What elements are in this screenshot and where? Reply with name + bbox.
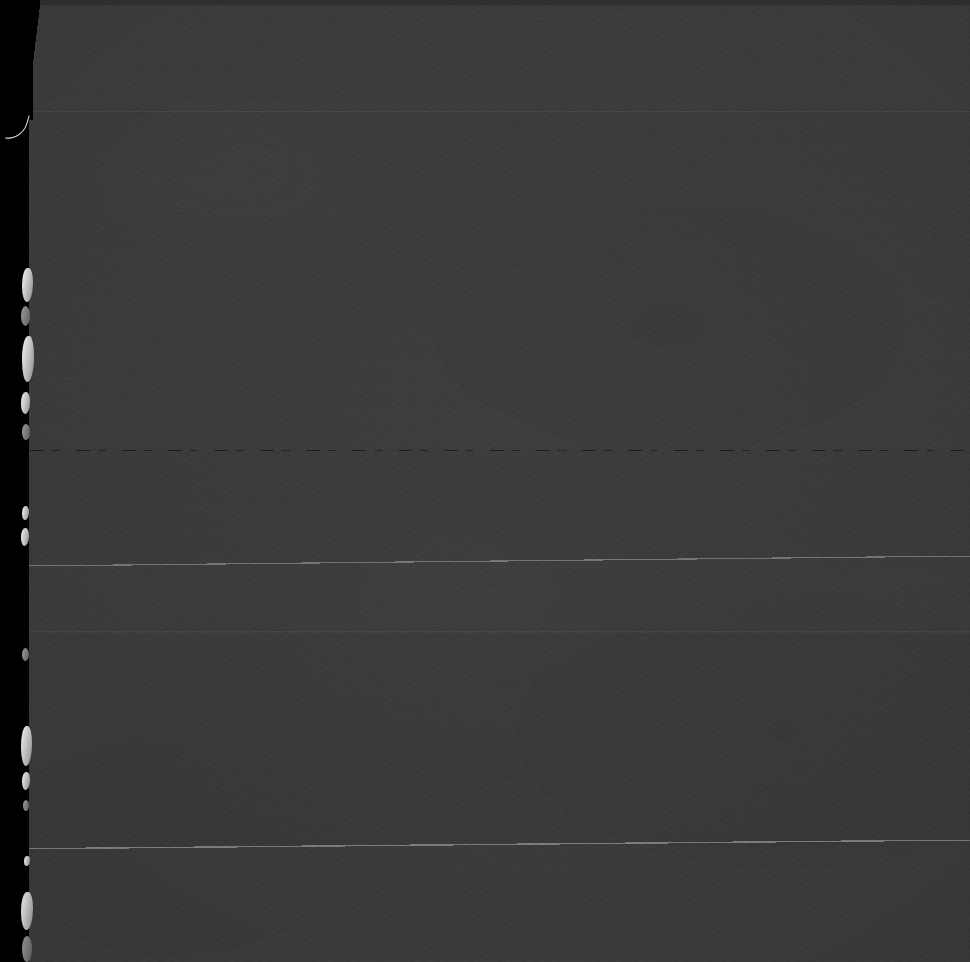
paper-tonal-banding xyxy=(28,0,970,962)
scanned-document-frame: Dark underexposed microfilm scan of a bl… xyxy=(0,0,970,962)
top-left-corner-slope xyxy=(24,0,40,132)
left-black-border xyxy=(0,0,29,962)
